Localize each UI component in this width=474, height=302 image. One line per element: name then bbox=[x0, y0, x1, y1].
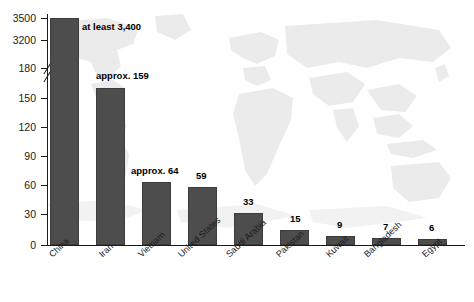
bar-value-egypt: 6 bbox=[429, 223, 434, 233]
y-tick-mark bbox=[41, 245, 47, 246]
y-tick-mark bbox=[41, 127, 47, 128]
y-tick-label-3200: 3200 bbox=[0, 35, 36, 45]
y-tick-label-3500: 3500 bbox=[0, 13, 36, 23]
y-tick-mark bbox=[41, 40, 47, 41]
bar-chart: 0 30 60 90 120 150 180 3200 3500 at leas… bbox=[0, 0, 474, 302]
y-tick-label-90: 90 bbox=[0, 151, 36, 161]
y-tick-label-0: 0 bbox=[0, 240, 36, 250]
y-tick-label-120: 120 bbox=[0, 122, 36, 132]
y-tick-label-150: 150 bbox=[0, 93, 36, 103]
y-tick-label-180: 180 bbox=[0, 63, 36, 73]
bar-value-united-states: 59 bbox=[196, 171, 207, 181]
bar-value-kuwait: 9 bbox=[337, 220, 342, 230]
bar-value-iran: approx. 159 bbox=[96, 71, 149, 81]
bar-value-vietnam: approx. 64 bbox=[131, 166, 179, 176]
y-tick-label-60: 60 bbox=[0, 180, 36, 190]
bar-value-pakistan: 15 bbox=[290, 214, 301, 224]
y-tick-mark bbox=[41, 98, 47, 99]
y-tick-mark bbox=[41, 18, 47, 19]
bar-value-china: at least 3,400 bbox=[82, 22, 141, 32]
y-axis-line bbox=[47, 14, 48, 245]
y-tick-mark bbox=[41, 185, 47, 186]
bar-china bbox=[50, 18, 79, 245]
y-tick-label-30: 30 bbox=[0, 209, 36, 219]
y-tick-mark bbox=[41, 156, 47, 157]
bar-iran bbox=[96, 88, 125, 245]
y-tick-mark bbox=[41, 214, 47, 215]
bar-value-saudi-arabia: 33 bbox=[243, 197, 254, 207]
